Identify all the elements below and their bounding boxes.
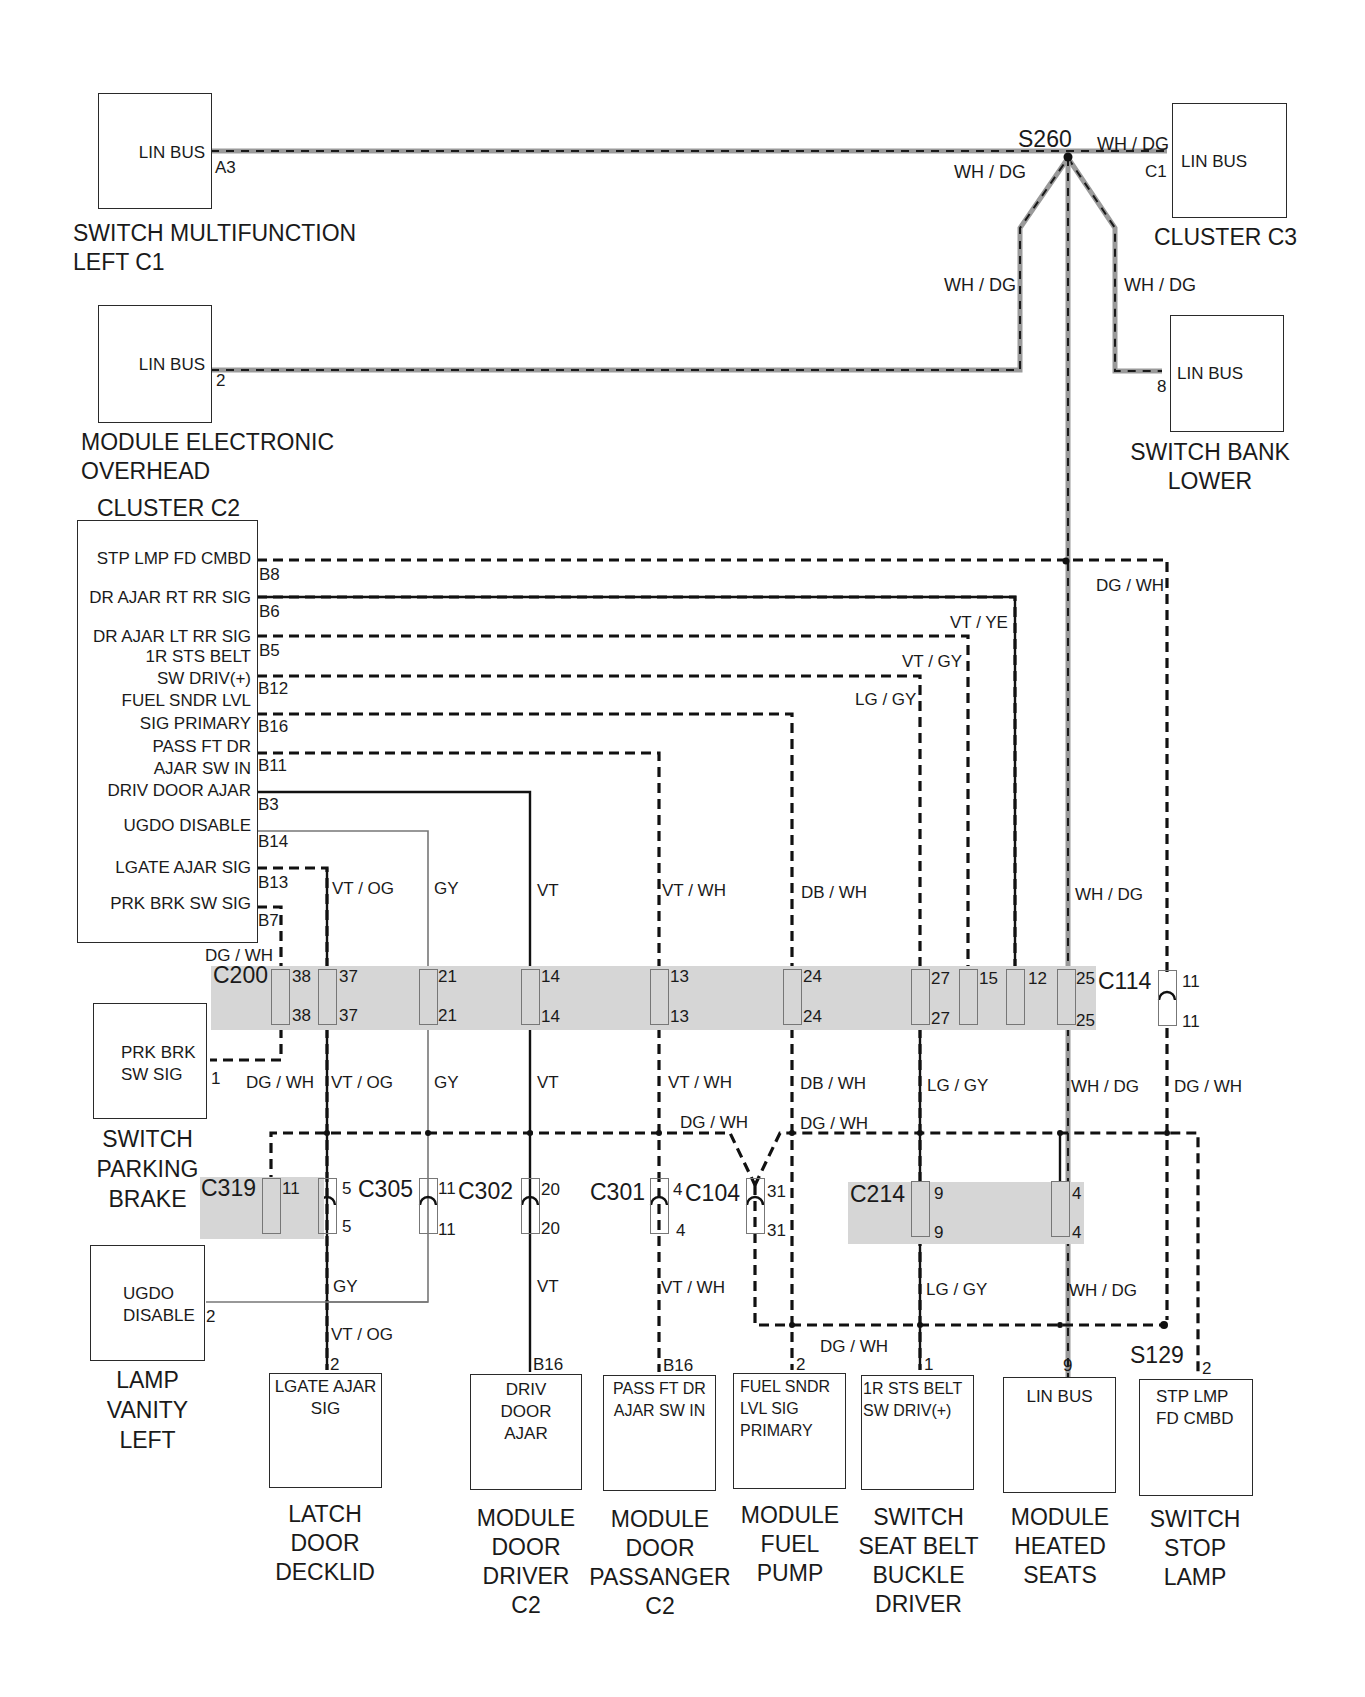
pin-number: 20 bbox=[541, 1220, 560, 1237]
pin-label: 9 bbox=[1063, 1357, 1072, 1374]
inner-signal-label: DRIV DOOR AJAR bbox=[471, 1379, 581, 1445]
wire-color-label: VT / OG bbox=[331, 1326, 393, 1343]
pin-number: 24 bbox=[803, 1008, 822, 1025]
pin-number: 14 bbox=[541, 1008, 560, 1025]
pin-label: A3 bbox=[215, 159, 236, 176]
wire-color-label: LG / GY bbox=[927, 1077, 988, 1094]
pin-housing bbox=[1006, 969, 1025, 1025]
component-caption: SWITCH MULTIFUNCTION LEFT C1 bbox=[73, 219, 356, 277]
wire-color-label: WH / DG bbox=[1069, 1282, 1137, 1299]
component-caption: LAMP VANITY LEFT bbox=[85, 1365, 210, 1455]
pin-number: 5 bbox=[342, 1180, 351, 1197]
wire-color-label: WH / DG bbox=[954, 163, 1026, 181]
pin-housing bbox=[419, 1178, 438, 1234]
pin-number: 15 bbox=[979, 970, 998, 987]
component-caption: MODULE HEATED SEATS bbox=[990, 1503, 1130, 1590]
wire-color-label: VT / GY bbox=[902, 653, 962, 670]
pin-housing bbox=[318, 969, 337, 1025]
splice-s260-label: S260 bbox=[1018, 128, 1072, 151]
wire-color-label: VT / WH bbox=[662, 882, 726, 899]
wire-color-label: VT / OG bbox=[332, 880, 394, 897]
wire-color-label: VT bbox=[537, 882, 559, 899]
wire-color-label: DB / WH bbox=[801, 884, 867, 901]
wire-color-label: WH / DG bbox=[1097, 135, 1169, 153]
component-caption: MODULE FUEL PUMP bbox=[720, 1501, 860, 1588]
component-caption: SWITCH PARKING BRAKE bbox=[85, 1124, 210, 1214]
wire-color-label: DG / WH bbox=[820, 1338, 888, 1355]
component-caption: MODULE ELECTRONIC OVERHEAD bbox=[81, 428, 334, 486]
inner-signal-label: UGDO DISABLE bbox=[123, 1283, 195, 1327]
pin-number: 11 bbox=[438, 1180, 456, 1197]
latch-door-decklid-box: LGATE AJAR SIG bbox=[269, 1373, 382, 1488]
pin-number: 38 bbox=[292, 968, 311, 985]
lin-bus-label: LIN BUS bbox=[139, 142, 205, 164]
connector-c104-label: C104 bbox=[685, 1182, 740, 1205]
pin-number: 11 bbox=[1182, 973, 1200, 990]
pin-number: 24 bbox=[803, 968, 822, 985]
pin-number: 11 bbox=[438, 1221, 456, 1238]
connector-c302-label: C302 bbox=[458, 1180, 513, 1203]
pin-number: 4 bbox=[1072, 1185, 1081, 1202]
connector-c114-label: C114 bbox=[1098, 970, 1151, 993]
pin-label: C1 bbox=[1145, 163, 1167, 180]
pin-number: 13 bbox=[670, 968, 689, 985]
wire-color-label: VT / OG bbox=[331, 1074, 393, 1091]
pin-label: B8 bbox=[259, 566, 280, 583]
pin-number: 38 bbox=[292, 1007, 311, 1024]
connector-c301-label: C301 bbox=[590, 1181, 645, 1204]
pin-number: 27 bbox=[931, 1010, 950, 1027]
component-caption: MODULE DOOR DRIVER C2 bbox=[456, 1504, 596, 1620]
wire-color-label: WH / DG bbox=[1071, 1078, 1139, 1095]
component-caption: SWITCH STOP LAMP bbox=[1125, 1505, 1265, 1592]
pin-housing bbox=[783, 969, 802, 1025]
connector-c305-label: C305 bbox=[358, 1178, 413, 1201]
pin-number: 4 bbox=[1072, 1224, 1081, 1241]
wire-color-label: DG / WH bbox=[1096, 577, 1164, 594]
lin-bus-label: LIN BUS bbox=[1181, 151, 1247, 173]
module-heated-seats-box: LIN BUS bbox=[1003, 1377, 1116, 1493]
pin-label: B11 bbox=[258, 757, 287, 774]
wire-color-label: DG / WH bbox=[680, 1114, 748, 1131]
pin-housing bbox=[1158, 970, 1177, 1026]
switch-seat-belt-box: 1R STS BELT SW DRIV(+) bbox=[861, 1375, 974, 1490]
wire-color-label: VT bbox=[537, 1278, 559, 1295]
pin-housing bbox=[419, 969, 438, 1025]
pin-label: 1 bbox=[211, 1070, 220, 1087]
inner-signal-label: PRK BRK SW SIG bbox=[121, 1042, 196, 1086]
pin-label: 2 bbox=[330, 1356, 339, 1373]
connector-c200-label: C200 bbox=[213, 964, 268, 987]
pin-number: 11 bbox=[282, 1180, 300, 1197]
pin-number: 4 bbox=[676, 1222, 685, 1239]
pin-housing bbox=[521, 969, 540, 1025]
pin-housing bbox=[911, 969, 930, 1025]
pin-number: 21 bbox=[438, 968, 457, 985]
pin-number: 9 bbox=[934, 1224, 943, 1241]
wire-color-label: GY bbox=[434, 1074, 459, 1091]
wire-color-label: VT / WH bbox=[661, 1279, 725, 1296]
inner-signal-label: PASS FT DR AJAR SW IN bbox=[604, 1378, 715, 1422]
pin-label: B16 bbox=[258, 718, 288, 735]
inner-signal-label: FUEL SNDR LVL SIG PRIMARY bbox=[740, 1376, 830, 1442]
pin-number: 5 bbox=[342, 1218, 351, 1235]
inner-signal-label: LGATE AJAR SIG bbox=[270, 1376, 381, 1420]
wire-color-label: LG / GY bbox=[855, 691, 916, 708]
wire-color-label: DB / WH bbox=[800, 1075, 866, 1092]
cluster-c2-title: CLUSTER C2 bbox=[97, 497, 240, 520]
pin-number: 11 bbox=[1182, 1013, 1200, 1030]
pin-number: 14 bbox=[541, 968, 560, 985]
switch-bank-box: LIN BUS bbox=[1170, 315, 1284, 432]
component-caption: SWITCH SEAT BELT BUCKLE DRIVER bbox=[846, 1503, 991, 1619]
splice-s260-dot bbox=[1064, 153, 1073, 162]
pin-number: 25 bbox=[1076, 970, 1095, 987]
pin-number: 9 bbox=[934, 1185, 943, 1202]
pin-number: 37 bbox=[339, 1007, 358, 1024]
pin-housing bbox=[650, 969, 669, 1025]
pin-housing bbox=[1051, 1181, 1070, 1237]
pin-number: 37 bbox=[339, 968, 358, 985]
inner-signal-label: 1R STS BELT SW DRIV(+) bbox=[863, 1378, 962, 1422]
switch-multifunction-box: LIN BUS bbox=[98, 93, 212, 209]
wire-color-label: GY bbox=[333, 1278, 358, 1295]
lin-bus-label: LIN BUS bbox=[139, 354, 205, 376]
pin-label: B6 bbox=[259, 603, 280, 620]
wire-color-label: VT / WH bbox=[668, 1074, 732, 1091]
